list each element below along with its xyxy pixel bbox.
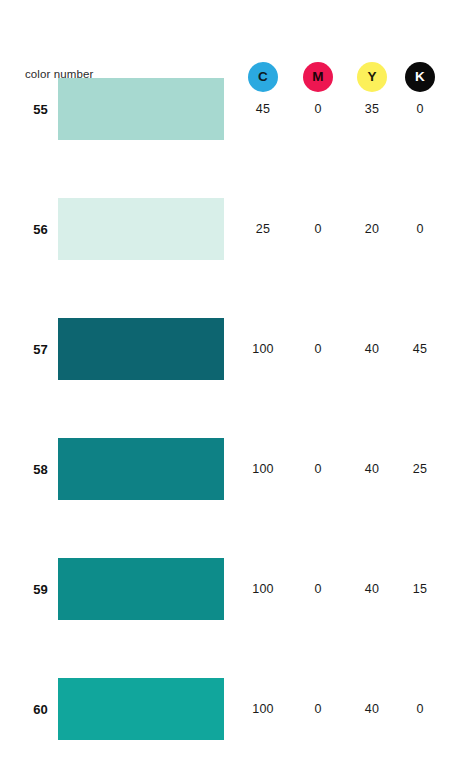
table-row: 5810004025 <box>0 438 461 500</box>
row-color-number: 56 <box>0 198 48 260</box>
color-swatch <box>58 558 224 620</box>
row-color-number: 55 <box>0 78 48 140</box>
table-row: 56250200 <box>0 198 461 260</box>
value-k: 45 <box>398 318 442 380</box>
color-swatch <box>58 318 224 380</box>
table-row: 55450350 <box>0 78 461 140</box>
value-m: 0 <box>296 438 340 500</box>
value-y: 20 <box>350 198 394 260</box>
row-color-number: 57 <box>0 318 48 380</box>
value-k: 25 <box>398 438 442 500</box>
color-swatch <box>58 678 224 740</box>
value-c: 100 <box>241 558 285 620</box>
value-m: 0 <box>296 318 340 380</box>
value-c: 45 <box>241 78 285 140</box>
value-k: 15 <box>398 558 442 620</box>
color-swatch <box>58 198 224 260</box>
table-row: 5710004045 <box>0 318 461 380</box>
color-chart: color number CMYK 5545035056250200571000… <box>0 0 461 758</box>
value-m: 0 <box>296 198 340 260</box>
value-c: 100 <box>241 438 285 500</box>
value-k: 0 <box>398 198 442 260</box>
value-k: 0 <box>398 78 442 140</box>
table-row: 5910004015 <box>0 558 461 620</box>
value-c: 100 <box>241 318 285 380</box>
value-y: 40 <box>350 678 394 740</box>
value-m: 0 <box>296 678 340 740</box>
row-color-number: 60 <box>0 678 48 740</box>
color-swatch <box>58 438 224 500</box>
value-y: 40 <box>350 318 394 380</box>
color-swatch <box>58 78 224 140</box>
value-m: 0 <box>296 78 340 140</box>
value-y: 35 <box>350 78 394 140</box>
table-row: 601000400 <box>0 678 461 740</box>
value-c: 25 <box>241 198 285 260</box>
row-color-number: 58 <box>0 438 48 500</box>
value-c: 100 <box>241 678 285 740</box>
chart-header: color number CMYK <box>0 28 461 72</box>
value-y: 40 <box>350 438 394 500</box>
value-k: 0 <box>398 678 442 740</box>
row-color-number: 59 <box>0 558 48 620</box>
value-m: 0 <box>296 558 340 620</box>
value-y: 40 <box>350 558 394 620</box>
